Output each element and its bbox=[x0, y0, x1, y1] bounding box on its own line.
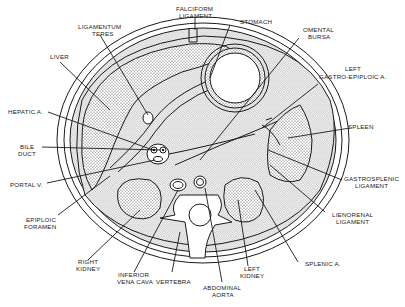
label-right-kidney-1: RIGHT bbox=[78, 258, 98, 265]
label-vertebra: VERTEBRA bbox=[156, 278, 192, 285]
label-falciform-1: FALCIFORM bbox=[176, 5, 213, 12]
abdominal-aorta bbox=[194, 176, 206, 188]
label-right-kidney-2: KIDNEY bbox=[76, 265, 100, 272]
label-epiploic-foramen-2: FORAMEN bbox=[24, 223, 56, 230]
label-falciform-2: LIGAMENT bbox=[179, 12, 212, 19]
label-abdominal-aorta-1: ABDOMINAL bbox=[203, 284, 242, 291]
label-stomach: STOMACH bbox=[240, 18, 272, 25]
label-bile-duct-1: BILE bbox=[20, 143, 34, 150]
label-portal-v: PORTAL V. bbox=[10, 181, 43, 188]
label-lienorenal-1: LIENORENAL bbox=[332, 211, 374, 218]
label-abdominal-aorta-2: AORTA bbox=[212, 291, 234, 298]
label-inferior-vena-cava-1: INFERIOR bbox=[118, 271, 149, 278]
label-left-gastro-epiploic-2: GASTRO-EPIPLOIC A. bbox=[319, 73, 387, 80]
label-gastrosplenic-1: GASTROSPLENIC bbox=[344, 175, 400, 182]
label-spleen: SPLEEN bbox=[348, 123, 374, 130]
label-hepatic-a: HEPATIC A. bbox=[8, 108, 43, 115]
label-gastrosplenic-2: LIGAMENT bbox=[355, 182, 388, 189]
label-omental-bursa-2: BURSA bbox=[308, 33, 331, 40]
label-omental-bursa-1: OMENTAL bbox=[303, 26, 334, 33]
inferior-vena-cava bbox=[170, 179, 186, 191]
left-kidney bbox=[224, 178, 264, 222]
label-left-gastro-epiploic-1: LEFT bbox=[345, 65, 361, 72]
label-ligamentum-teres-2: TERES bbox=[92, 30, 114, 37]
label-splenic-a: SPLENIC A. bbox=[305, 260, 341, 267]
stomach bbox=[201, 44, 269, 112]
label-inferior-vena-cava-2: VENA CAVA bbox=[117, 278, 154, 285]
label-left-kidney-1: LEFT bbox=[244, 265, 260, 272]
label-epiploic-foramen-1: EPIPLOIC bbox=[26, 216, 56, 223]
label-lienorenal-2: LIGAMENT bbox=[336, 218, 369, 225]
label-liver: LIVER bbox=[50, 53, 69, 60]
label-bile-duct-2: DUCT bbox=[18, 150, 36, 157]
label-left-kidney-2: KIDNEY bbox=[240, 272, 264, 279]
portal-vein bbox=[154, 157, 163, 162]
label-ligamentum-teres-1: LIGAMENTUM bbox=[78, 23, 121, 30]
abdominal-cross-section-diagram: FALCIFORM LIGAMENT STOMACH LIGAMENTUM TE… bbox=[0, 0, 405, 307]
